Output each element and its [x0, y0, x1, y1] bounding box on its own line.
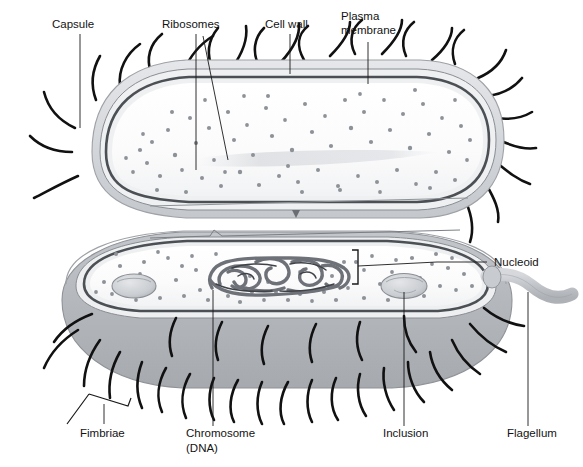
label-inclusion: Inclusion: [383, 427, 428, 439]
label-chromosome-line1: Chromosome: [186, 427, 255, 439]
label-flagellum: Flagellum: [507, 427, 557, 439]
label-fimbriae: Fimbriae: [80, 427, 125, 439]
label-chromosome-line2: (DNA): [186, 442, 218, 454]
label-capsule: Capsule: [52, 18, 94, 30]
label-nucleoid: Nucleoid: [494, 256, 539, 268]
bacterial-cell-diagram: Capsule Ribosomes Cell wall Plasma membr…: [0, 0, 583, 467]
inclusion-left: [112, 274, 156, 298]
diagram-canvas: Capsule Ribosomes Cell wall Plasma membr…: [0, 0, 583, 467]
label-ribosomes: Ribosomes: [162, 18, 220, 30]
label-plasma-membrane-line1: Plasma: [341, 10, 380, 22]
cytoplasm-upper: [112, 83, 483, 196]
lower-cell: [62, 230, 512, 388]
label-plasma-membrane-line2: membrane: [341, 24, 396, 36]
label-cell-wall: Cell wall: [265, 18, 308, 30]
upper-cell: [92, 60, 504, 218]
